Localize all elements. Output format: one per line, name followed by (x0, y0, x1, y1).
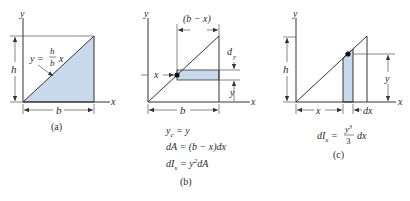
strip-top-dot (345, 51, 350, 56)
panel-b: y x (b − x) d y y x b yc = y dA = (b − x… (141, 8, 256, 188)
eq-numerator: y3 (344, 124, 352, 134)
eq-yc: yc = y (165, 125, 190, 139)
eq-dA: dA = (b − x)dx (166, 141, 227, 153)
y-axis-label: y (19, 8, 25, 19)
eq-dIx: dIx = y2dA (166, 157, 209, 172)
y-label: y (384, 73, 390, 84)
x-axis-label: x (250, 96, 256, 107)
b-label: b (180, 104, 186, 116)
hypotenuse (148, 36, 219, 102)
h-label: h (11, 63, 17, 75)
caption-c: (c) (333, 149, 344, 161)
triangle-area (23, 36, 94, 102)
h-label: h (283, 63, 289, 75)
x-label: x (315, 105, 321, 116)
hypotenuse (296, 36, 367, 102)
centroid-dot (174, 72, 179, 77)
caption-a: (a) (51, 121, 62, 133)
y-axis-label: y (143, 8, 149, 19)
dx-label: dx (363, 105, 373, 116)
curve-eq-lhs: y = (29, 53, 44, 64)
panel-a: y x h b y = h b x (a) (10, 8, 116, 133)
eq-denominator: 3 (346, 136, 351, 146)
dy-subscript: y (232, 53, 237, 61)
eq-tail: dx (357, 130, 367, 141)
b-minus-x-label: (b − x) (183, 13, 212, 25)
x-axis-label: x (397, 96, 403, 107)
x-axis-label: x (110, 96, 116, 107)
curve-eq-denominator: b (50, 58, 55, 68)
panel-c: y x h y x dx dIx = y3 3 dx (c) (283, 8, 403, 161)
moment-of-inertia-triangle-figure: y x h b y = h b x (a) y x (0, 0, 410, 201)
y-axis-label: y (292, 8, 298, 19)
curve-eq-variable: x (58, 53, 64, 64)
eq-dIx-lhs: dIx = (317, 130, 338, 144)
curve-eq-numerator: h (50, 46, 55, 56)
caption-b: (b) (180, 176, 192, 188)
x-label: x (153, 69, 159, 80)
b-label: b (56, 104, 62, 116)
y-offset-label: y (229, 87, 235, 98)
horizontal-strip (177, 70, 219, 80)
